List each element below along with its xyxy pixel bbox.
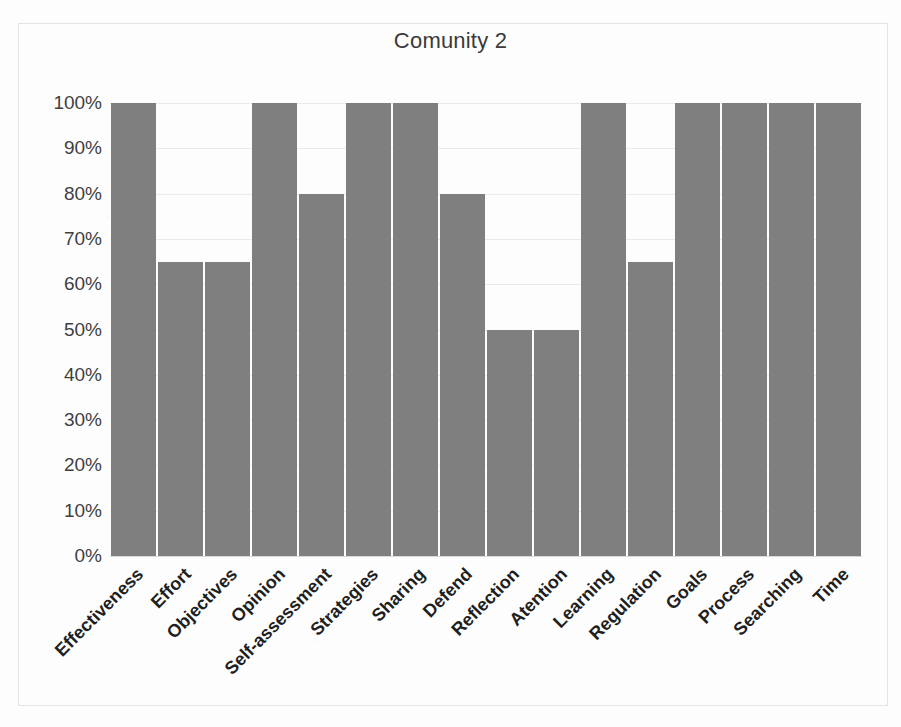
bar[interactable]	[111, 103, 156, 556]
x-axis: EffectivenessEffortObjectivesOpinionSelf…	[110, 556, 862, 706]
chart-page: Comunity 2 100%90%80%70%60%50%40%30%20%1…	[0, 0, 901, 727]
x-tick-slot: Time	[815, 556, 862, 706]
x-tick-slot: Objectives	[204, 556, 251, 706]
x-tick-slot: Effectiveness	[110, 556, 157, 706]
y-tick-label: 80%	[18, 183, 102, 205]
bar-slot	[721, 103, 768, 556]
bar-slot	[439, 103, 486, 556]
y-tick-label: 20%	[18, 454, 102, 476]
x-tick-slot: Goals	[674, 556, 721, 706]
bar[interactable]	[628, 262, 673, 556]
bar-slot	[815, 103, 862, 556]
bar[interactable]	[581, 103, 626, 556]
bar[interactable]	[440, 194, 485, 556]
plot-area	[110, 103, 862, 556]
y-axis: 100%90%80%70%60%50%40%30%20%10%0%	[18, 103, 102, 556]
y-tick-label: 10%	[18, 500, 102, 522]
bar-slot	[392, 103, 439, 556]
bar-slot	[345, 103, 392, 556]
bar-slot	[674, 103, 721, 556]
y-tick-label: 40%	[18, 364, 102, 386]
bar[interactable]	[205, 262, 250, 556]
x-tick-slot: Strategies	[345, 556, 392, 706]
bar[interactable]	[299, 194, 344, 556]
chart-title: Comunity 2	[0, 28, 901, 54]
x-tick-slot: Atention	[533, 556, 580, 706]
x-tick-slot: Searching	[768, 556, 815, 706]
bar-series	[110, 103, 862, 556]
y-tick-label: 100%	[18, 92, 102, 114]
bar[interactable]	[487, 330, 532, 557]
bar[interactable]	[393, 103, 438, 556]
bar-slot	[298, 103, 345, 556]
bar[interactable]	[722, 103, 767, 556]
y-tick-label: 30%	[18, 409, 102, 431]
bar[interactable]	[769, 103, 814, 556]
bar-slot	[768, 103, 815, 556]
y-tick-label: 70%	[18, 228, 102, 250]
y-tick-label: 0%	[18, 545, 102, 567]
bar-slot	[204, 103, 251, 556]
bar[interactable]	[158, 262, 203, 556]
bar[interactable]	[346, 103, 391, 556]
x-tick-label: Time	[809, 564, 853, 608]
bar-slot	[157, 103, 204, 556]
x-tick-slot: Sharing	[392, 556, 439, 706]
bar-slot	[580, 103, 627, 556]
bar-slot	[533, 103, 580, 556]
bar[interactable]	[534, 330, 579, 557]
y-tick-label: 90%	[18, 137, 102, 159]
bar[interactable]	[816, 103, 861, 556]
x-tick-slot: Regulation	[627, 556, 674, 706]
bar-slot	[251, 103, 298, 556]
y-tick-label: 50%	[18, 319, 102, 341]
bar[interactable]	[675, 103, 720, 556]
bar[interactable]	[252, 103, 297, 556]
x-tick-slot: Reflection	[486, 556, 533, 706]
bar-slot	[627, 103, 674, 556]
bar-slot	[110, 103, 157, 556]
y-tick-label: 60%	[18, 273, 102, 295]
bar-slot	[486, 103, 533, 556]
